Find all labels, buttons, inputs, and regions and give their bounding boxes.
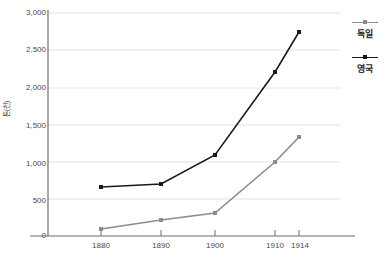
legend-label-britain: 영국 — [344, 64, 386, 74]
x-axis-ticks — [101, 230, 299, 236]
data-point-germany — [273, 160, 277, 164]
axis-lines — [30, 10, 355, 236]
data-point-germany — [99, 227, 103, 231]
plot-area — [0, 0, 386, 263]
legend-label-germany: 독일 — [344, 29, 386, 39]
data-point-britain — [273, 70, 277, 74]
data-point-britain — [213, 153, 217, 157]
x-tick-label: 1890 — [152, 241, 170, 250]
series-line-germany — [99, 135, 301, 231]
data-point-germany — [213, 211, 217, 215]
x-tick-label: 1910 — [266, 241, 284, 250]
legend-swatch-germany — [352, 18, 378, 27]
legend-swatch-britain — [352, 53, 378, 62]
chart-legend: 독일 영국 — [344, 18, 386, 88]
x-tick-label: 1914 — [291, 241, 309, 250]
data-point-germany — [159, 218, 163, 222]
x-tick-label: 1900 — [206, 241, 224, 250]
data-point-germany — [297, 135, 301, 139]
data-point-britain — [159, 182, 163, 186]
line-chart: 톤(천) 3,000 2,500 2,000 1,500 1,000 500 0 — [0, 0, 386, 263]
gridlines — [48, 13, 341, 199]
data-point-britain — [99, 185, 103, 189]
legend-item-britain[interactable]: 영국 — [344, 53, 386, 74]
x-tick-label: 1880 — [92, 241, 110, 250]
legend-item-germany[interactable]: 독일 — [344, 18, 386, 39]
data-point-britain — [297, 30, 301, 34]
